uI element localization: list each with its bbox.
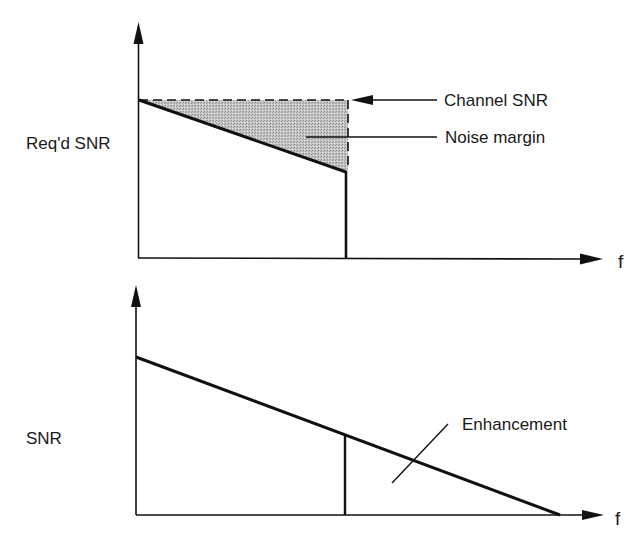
- bottom-x-axis-label: f: [615, 508, 621, 529]
- enhancement-leader: [392, 424, 448, 483]
- top-y-axis-arrow-icon: [134, 22, 144, 44]
- top-x-axis-arrow-icon: [580, 254, 603, 265]
- snr-diagram: f Channel SNR Noise margin Req'd SNR f E…: [0, 0, 642, 547]
- top-y-axis-label: Req'd SNR: [26, 134, 111, 153]
- channel-snr-label: Channel SNR: [444, 91, 548, 110]
- top-panel: f Channel SNR Noise margin Req'd SNR: [26, 22, 624, 272]
- bottom-y-axis-label: SNR: [26, 429, 62, 448]
- snr-line: [136, 357, 560, 515]
- channel-snr-arrow-icon: [351, 95, 373, 105]
- bottom-x-axis-arrow-icon: [582, 510, 604, 520]
- bottom-panel: f Enhancement SNR: [26, 285, 621, 529]
- enhancement-label: Enhancement: [462, 415, 567, 434]
- top-x-axis: [138, 258, 585, 259]
- bottom-y-axis-arrow-icon: [131, 285, 141, 307]
- noise-margin-label: Noise margin: [445, 128, 545, 147]
- top-x-axis-label: f: [618, 251, 624, 272]
